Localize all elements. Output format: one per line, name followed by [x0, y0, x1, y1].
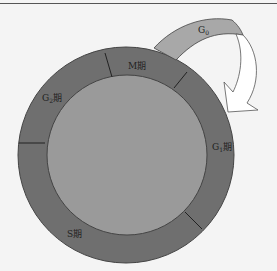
label-s-phase: S期 — [67, 229, 82, 239]
g0-return-arrow-icon — [224, 34, 258, 112]
cell-interior — [47, 75, 207, 235]
label-m-phase: M期 — [128, 61, 146, 71]
cell-cycle-diagram: M期 G1期 S期 G2期 G0 — [0, 0, 277, 271]
